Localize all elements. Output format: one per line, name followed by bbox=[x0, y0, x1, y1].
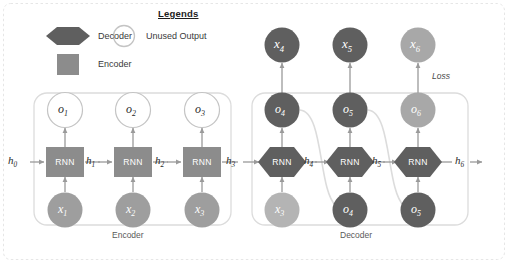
legend-label-decoder: Decoder bbox=[98, 31, 132, 41]
hidden-state-h2-label: h2 bbox=[155, 155, 164, 169]
unused-output-o2-label: o2 bbox=[126, 103, 136, 118]
decoder-input-o5-label: o5 bbox=[411, 203, 421, 218]
hidden-state-h3-label: h3 bbox=[226, 155, 235, 169]
hidden-state-h6-label: h6 bbox=[455, 155, 464, 169]
encoder-input-x3-label: x3 bbox=[195, 203, 204, 218]
decoder-output-o5-label: o5 bbox=[343, 103, 353, 118]
diagram-canvas: RNN RNN RNN RNN RNN RNN Legends Decoder … bbox=[0, 0, 508, 263]
unused-output-o1-label: o1 bbox=[58, 103, 68, 118]
encoder-cell-2-label: RNN bbox=[123, 157, 143, 167]
legend-label-encoder: Encoder bbox=[98, 59, 132, 69]
legend-title: Legends bbox=[158, 8, 198, 19]
decoder-cell-3-label: RNN bbox=[408, 157, 428, 167]
unused-output-o3-label: o3 bbox=[195, 103, 205, 118]
encoder-group-caption: Encoder bbox=[112, 230, 144, 240]
encoder-cell-1-label: RNN bbox=[55, 157, 75, 167]
encoder-input-x2-label: x2 bbox=[126, 203, 135, 218]
diagram-svg: RNN RNN RNN RNN RNN RNN bbox=[0, 0, 508, 263]
target-x4-label: x4 bbox=[274, 37, 284, 53]
decoder-output-o4-label: o4 bbox=[275, 103, 285, 118]
target-x5-label: x5 bbox=[342, 37, 352, 53]
legend-decoder-hexagon bbox=[46, 27, 90, 45]
encoder-input-x1-label: x1 bbox=[58, 203, 67, 218]
legend-encoder-square bbox=[57, 54, 79, 75]
target-x6-label: x6 bbox=[410, 37, 420, 53]
decoder-output-o6-label: o6 bbox=[411, 103, 421, 118]
hidden-state-h4-label: h4 bbox=[304, 155, 313, 169]
encoder-cell-3-label: RNN bbox=[192, 157, 212, 167]
decoder-cell-1-label: RNN bbox=[272, 157, 292, 167]
decoder-cell-2-label: RNN bbox=[340, 157, 360, 167]
decoder-input-x3-label: x3 bbox=[275, 203, 284, 218]
legend-label-unused-output: Unused Output bbox=[146, 31, 207, 41]
loss-annotation: Loss bbox=[432, 71, 450, 81]
decoder-group-caption: Decoder bbox=[340, 230, 372, 240]
hidden-state-h5-label: h5 bbox=[372, 155, 381, 169]
decoder-input-o4-label: o4 bbox=[343, 203, 353, 218]
hidden-state-h0-label: h0 bbox=[8, 155, 17, 169]
hidden-state-h1-label: h1 bbox=[86, 155, 95, 169]
